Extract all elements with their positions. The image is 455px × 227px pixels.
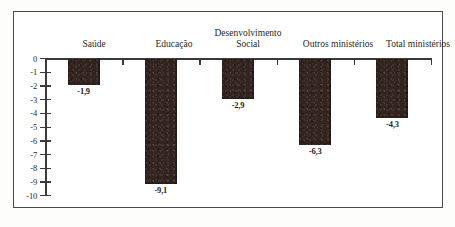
category-label-saude-text: Saúde: [82, 39, 105, 49]
x-tick-3: [277, 58, 278, 65]
y-tick-1: -1: [40, 72, 51, 73]
y-tick-label-10: -10: [26, 191, 37, 200]
y-tick-label-4: -4: [30, 109, 37, 118]
category-label-desenvolvimento-line1: Desenvolvimento: [214, 28, 281, 38]
x-tick-1: [122, 58, 123, 65]
x-tick-4: [354, 58, 355, 65]
y-tick-5: -5: [40, 127, 51, 128]
category-label-outros-text: Outros ministérios: [303, 39, 373, 49]
y-tick-label-5: -5: [30, 123, 37, 132]
y-tick-label-9: -9: [30, 178, 37, 187]
y-tick-label-0: 0: [33, 54, 37, 63]
y-tick-2: -2: [40, 85, 51, 86]
bar-4[interactable]: -4,3: [376, 59, 408, 118]
plot-area: Saúde Educação Desenvolvimento Social Ou…: [14, 12, 442, 207]
bar-2[interactable]: -2,9: [222, 59, 254, 99]
category-label-saude: Saúde: [58, 39, 130, 50]
y-tick-label-6: -6: [30, 137, 37, 146]
category-label-total-ministerios: Total ministérios: [368, 39, 455, 50]
y-tick-label-2: -2: [30, 82, 37, 91]
category-label-desenvolvimento-line2: Social: [236, 39, 260, 49]
y-tick-label-8: -8: [30, 164, 37, 173]
scanned-page: Saúde Educação Desenvolvimento Social Ou…: [0, 0, 455, 227]
x-tick-5: [431, 58, 432, 65]
bar-3[interactable]: -6,3: [299, 59, 331, 145]
category-label-educacao-text: Educação: [156, 39, 193, 49]
y-tick-label-3: -3: [30, 96, 37, 105]
bar-0[interactable]: -1,9: [68, 59, 100, 85]
bar-value-label-4: -4,3: [386, 120, 399, 129]
y-tick-6: -6: [40, 140, 51, 141]
category-label-total-text: Total ministérios: [386, 39, 450, 49]
bar-value-label-2: -2,9: [232, 101, 245, 110]
bar-1[interactable]: -9,1: [145, 59, 177, 184]
y-tick-10: -10: [40, 195, 51, 196]
y-tick-3: -3: [40, 99, 51, 100]
y-tick-7: -7: [40, 154, 51, 155]
x-tick-2: [199, 58, 200, 65]
y-tick-label-1: -1: [30, 68, 37, 77]
y-tick-9: -9: [40, 181, 51, 182]
x-tick-0: [45, 58, 46, 65]
y-tick-4: -4: [40, 113, 51, 114]
bar-value-label-0: -1,9: [77, 87, 90, 96]
y-tick-label-7: -7: [30, 150, 37, 159]
y-tick-8: -8: [40, 168, 51, 169]
bar-value-label-1: -9,1: [154, 186, 167, 195]
chart-frame: Saúde Educação Desenvolvimento Social Ou…: [13, 11, 443, 208]
bar-value-label-3: -6,3: [309, 147, 322, 156]
